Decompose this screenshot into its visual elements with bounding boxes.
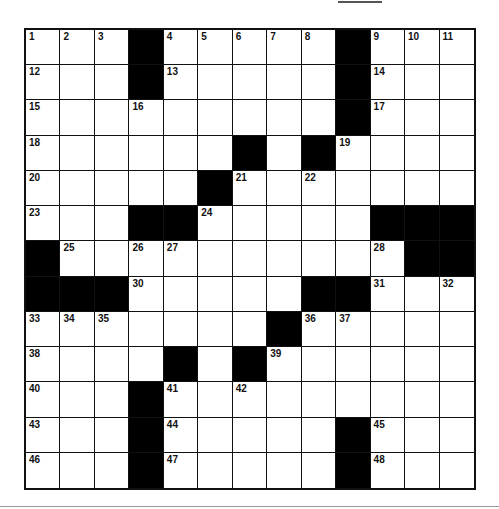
grid-cell[interactable]: 1 — [26, 30, 60, 65]
grid-cell[interactable] — [198, 382, 232, 417]
grid-cell[interactable] — [405, 312, 439, 347]
grid-cell[interactable] — [129, 347, 163, 382]
grid-cell[interactable]: 33 — [26, 312, 60, 347]
grid-cell[interactable] — [405, 171, 439, 206]
grid-cell[interactable]: 15 — [26, 100, 60, 135]
grid-cell[interactable]: 22 — [302, 171, 336, 206]
grid-cell[interactable]: 26 — [129, 241, 163, 276]
grid-cell[interactable] — [129, 312, 163, 347]
grid-cell[interactable]: 37 — [336, 312, 370, 347]
grid-cell[interactable]: 14 — [371, 65, 405, 100]
grid-cell[interactable] — [440, 171, 474, 206]
grid-cell[interactable] — [198, 65, 232, 100]
grid-cell[interactable] — [302, 418, 336, 453]
grid-cell[interactable] — [198, 312, 232, 347]
grid-cell[interactable] — [336, 382, 370, 417]
grid-cell[interactable] — [371, 312, 405, 347]
grid-cell[interactable]: 28 — [371, 241, 405, 276]
grid-cell[interactable]: 19 — [336, 136, 370, 171]
grid-cell[interactable]: 40 — [26, 382, 60, 417]
grid-cell[interactable]: 31 — [371, 277, 405, 312]
grid-cell[interactable] — [405, 136, 439, 171]
grid-cell[interactable] — [198, 100, 232, 135]
grid-cell[interactable]: 6 — [233, 30, 267, 65]
grid-cell[interactable] — [267, 100, 301, 135]
grid-cell[interactable] — [233, 312, 267, 347]
grid-cell[interactable] — [302, 382, 336, 417]
grid-cell[interactable]: 38 — [26, 347, 60, 382]
grid-cell[interactable] — [60, 136, 94, 171]
grid-cell[interactable] — [95, 241, 129, 276]
grid-cell[interactable]: 45 — [371, 418, 405, 453]
grid-cell[interactable] — [267, 136, 301, 171]
grid-cell[interactable] — [95, 100, 129, 135]
grid-cell[interactable] — [440, 453, 474, 488]
grid-cell[interactable]: 25 — [60, 241, 94, 276]
grid-cell[interactable]: 27 — [164, 241, 198, 276]
grid-cell[interactable] — [164, 312, 198, 347]
grid-cell[interactable] — [405, 347, 439, 382]
grid-cell[interactable] — [198, 241, 232, 276]
grid-cell[interactable]: 35 — [95, 312, 129, 347]
grid-cell[interactable] — [267, 277, 301, 312]
grid-cell[interactable] — [60, 382, 94, 417]
grid-cell[interactable] — [371, 136, 405, 171]
grid-cell[interactable] — [198, 418, 232, 453]
grid-cell[interactable] — [60, 100, 94, 135]
grid-cell[interactable]: 23 — [26, 206, 60, 241]
grid-cell[interactable]: 43 — [26, 418, 60, 453]
grid-cell[interactable] — [371, 347, 405, 382]
grid-cell[interactable] — [336, 206, 370, 241]
grid-cell[interactable] — [302, 347, 336, 382]
grid-cell[interactable] — [302, 453, 336, 488]
grid-cell[interactable] — [267, 382, 301, 417]
grid-cell[interactable]: 8 — [302, 30, 336, 65]
grid-cell[interactable]: 44 — [164, 418, 198, 453]
grid-cell[interactable]: 10 — [405, 30, 439, 65]
grid-cell[interactable]: 5 — [198, 30, 232, 65]
grid-cell[interactable] — [129, 136, 163, 171]
grid-cell[interactable] — [302, 206, 336, 241]
grid-cell[interactable]: 13 — [164, 65, 198, 100]
grid-cell[interactable] — [60, 453, 94, 488]
grid-cell[interactable] — [267, 418, 301, 453]
grid-cell[interactable] — [233, 277, 267, 312]
grid-cell[interactable]: 36 — [302, 312, 336, 347]
grid-cell[interactable]: 9 — [371, 30, 405, 65]
grid-cell[interactable] — [198, 347, 232, 382]
grid-cell[interactable] — [440, 312, 474, 347]
grid-cell[interactable] — [440, 382, 474, 417]
grid-cell[interactable] — [233, 100, 267, 135]
grid-cell[interactable] — [164, 100, 198, 135]
grid-cell[interactable] — [336, 347, 370, 382]
grid-cell[interactable] — [198, 453, 232, 488]
grid-cell[interactable] — [405, 65, 439, 100]
grid-cell[interactable] — [405, 100, 439, 135]
grid-cell[interactable]: 18 — [26, 136, 60, 171]
grid-cell[interactable] — [233, 453, 267, 488]
grid-cell[interactable] — [60, 418, 94, 453]
grid-cell[interactable] — [60, 206, 94, 241]
grid-cell[interactable]: 16 — [129, 100, 163, 135]
grid-cell[interactable] — [267, 241, 301, 276]
grid-cell[interactable]: 34 — [60, 312, 94, 347]
grid-cell[interactable]: 11 — [440, 30, 474, 65]
grid-cell[interactable]: 39 — [267, 347, 301, 382]
grid-cell[interactable]: 3 — [95, 30, 129, 65]
grid-cell[interactable] — [129, 171, 163, 206]
grid-cell[interactable] — [95, 418, 129, 453]
grid-cell[interactable] — [233, 241, 267, 276]
grid-cell[interactable] — [95, 382, 129, 417]
grid-cell[interactable] — [405, 418, 439, 453]
grid-cell[interactable]: 17 — [371, 100, 405, 135]
grid-cell[interactable] — [198, 277, 232, 312]
grid-cell[interactable]: 41 — [164, 382, 198, 417]
grid-cell[interactable] — [164, 136, 198, 171]
grid-cell[interactable] — [164, 171, 198, 206]
grid-cell[interactable] — [198, 136, 232, 171]
grid-cell[interactable] — [440, 136, 474, 171]
grid-cell[interactable] — [440, 100, 474, 135]
grid-cell[interactable]: 47 — [164, 453, 198, 488]
grid-cell[interactable] — [95, 206, 129, 241]
grid-cell[interactable] — [302, 65, 336, 100]
